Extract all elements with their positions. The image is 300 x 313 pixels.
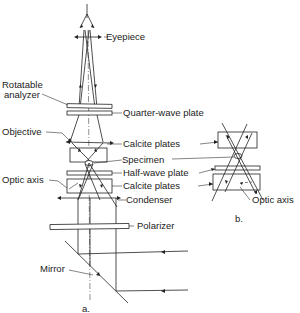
mirror [65, 241, 128, 303]
label-rotatable-analyzer-2: analyzer [4, 89, 40, 100]
quarter-wave-plate [67, 111, 112, 115]
label-condenser: Condenser [126, 194, 172, 205]
label-quarter-wave-plate: Quarter-wave plate [123, 107, 204, 118]
rotatable-analyzer [67, 104, 112, 109]
label-panel-b: b. [235, 213, 243, 224]
label-objective: Objective [2, 126, 42, 137]
half-wave-plate-b [215, 166, 260, 170]
label-calcite-plates-top: Calcite plates [123, 138, 180, 149]
label-specimen: Specimen [122, 154, 164, 165]
label-mirror: Mirror [40, 263, 65, 274]
label-half-wave-plate: Half-wave plate [123, 167, 188, 178]
panel-b [212, 123, 263, 201]
polarizer [50, 223, 129, 229]
label-panel-a: a. [82, 303, 90, 313]
label-calcite-plates-bottom: Calcite plates [123, 180, 180, 191]
label-optic-axis-right: Optic axis [252, 194, 294, 205]
label-polarizer: Polarizer [137, 220, 175, 231]
label-optic-axis-left: Optic axis [2, 174, 44, 185]
label-eyepiece: Eyepiece [106, 31, 145, 42]
panel-a [50, 4, 188, 303]
microscope-diagram: Eyepiece Rotatable analyzer Quarter-wave… [0, 0, 300, 313]
